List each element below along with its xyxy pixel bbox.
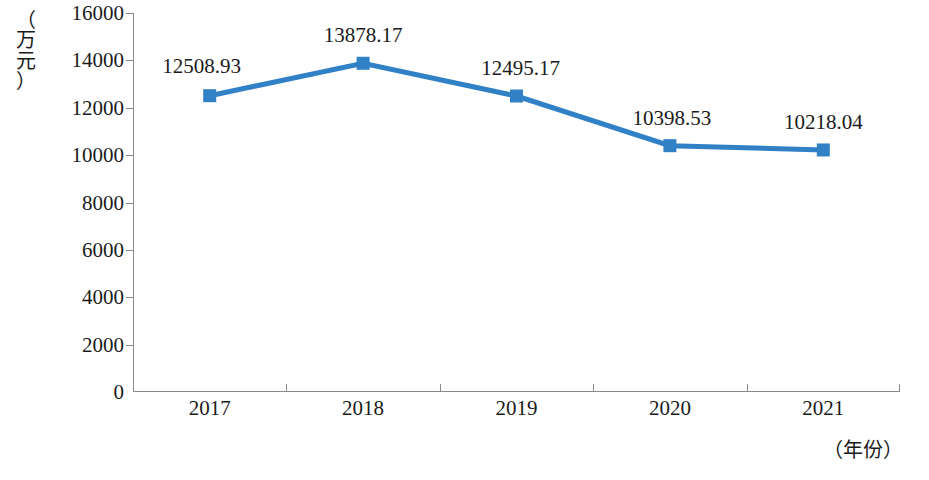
y-axis-tick-mark (126, 345, 133, 346)
y-axis-tick-mark (126, 203, 133, 204)
data-point-label: 12495.17 (481, 58, 560, 79)
x-axis-tick-labels: 20172018201920202021 (133, 398, 900, 428)
y-axis-tick-mark (126, 108, 133, 109)
y-axis-tick-label: 6000 (38, 240, 124, 261)
y-axis-tick-labels: 1600014000120001000080006000400020000 (36, 0, 124, 480)
data-point-marker (510, 90, 523, 103)
y-axis-tick-mark (126, 250, 133, 251)
data-point-marker (663, 139, 676, 152)
data-point-marker (203, 89, 216, 102)
y-axis-tick-mark (126, 13, 133, 14)
x-axis-tick-mark (899, 384, 900, 392)
y-axis-tick-label: 2000 (38, 335, 124, 356)
data-point-label: 12508.93 (162, 56, 241, 77)
y-axis-tick-label: 16000 (38, 3, 124, 24)
y-axis-tick-mark (126, 297, 133, 298)
x-axis-tick-label: 2020 (649, 398, 691, 419)
data-point-marker (817, 143, 830, 156)
line-chart: （ 万 元 ） 16000140001200010000800060004000… (0, 0, 929, 480)
y-axis-tick-label: 12000 (38, 98, 124, 119)
x-axis-tick-mark (440, 384, 441, 392)
y-axis-tick-mark (126, 60, 133, 61)
x-axis-tick-mark (593, 384, 594, 392)
x-axis-title: （年份） (823, 440, 903, 460)
y-axis-tick-label: 4000 (38, 287, 124, 308)
x-axis-tick-label: 2019 (496, 398, 538, 419)
x-axis-tick-label: 2021 (802, 398, 844, 419)
y-axis-tick-label: 8000 (38, 193, 124, 214)
y-axis-tick-label: 10000 (38, 145, 124, 166)
data-point-label: 10218.04 (784, 112, 863, 133)
x-axis-tick-mark (747, 384, 748, 392)
y-axis-tick-mark (126, 155, 133, 156)
y-axis-tick-label: 0 (38, 382, 124, 403)
data-point-marker (357, 57, 370, 70)
y-axis-tick-label: 14000 (38, 50, 124, 71)
data-point-label: 10398.53 (633, 108, 712, 129)
x-axis-tick-mark (286, 384, 287, 392)
x-axis-tick-label: 2017 (189, 398, 231, 419)
x-axis-tick-label: 2018 (342, 398, 384, 419)
data-point-label: 13878.17 (324, 25, 403, 46)
